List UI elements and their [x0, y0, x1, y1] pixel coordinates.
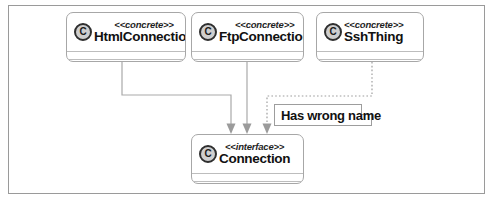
class-header: C <<concrete>> HtmlConnection	[67, 13, 185, 51]
arrowhead-html	[227, 124, 236, 135]
arrowhead-ssh	[263, 124, 272, 135]
class-box-ftp-connection[interactable]: C <<concrete>> FtpConnection	[191, 12, 304, 62]
note-has-wrong-name[interactable]: Has wrong name	[274, 104, 372, 126]
class-name-block: <<concrete>> HtmlConnection	[94, 20, 186, 44]
class-attributes-compartment	[67, 51, 185, 59]
class-operations-compartment	[192, 59, 303, 62]
class-operations-compartment	[317, 59, 423, 62]
class-c-icon: C	[324, 23, 342, 41]
class-header: C <<interface>> Connection	[192, 135, 303, 173]
class-name-block: <<interface>> Connection	[219, 142, 290, 166]
class-box-connection-interface[interactable]: C <<interface>> Connection	[191, 134, 304, 184]
note-text: Has wrong name	[281, 104, 381, 126]
class-name: FtpConnection	[219, 30, 304, 44]
relationship-html-to-connection	[122, 62, 231, 124]
class-operations-compartment	[67, 59, 185, 62]
class-c-icon: C	[199, 23, 217, 41]
class-name: Connection	[219, 152, 290, 166]
class-name-block: <<concrete>> SshThing	[344, 20, 403, 44]
class-header: C <<concrete>> SshThing	[317, 13, 423, 51]
class-name: SshThing	[344, 30, 403, 44]
class-attributes-compartment	[317, 51, 423, 59]
class-name-block: <<concrete>> FtpConnection	[219, 20, 304, 44]
class-box-html-connection[interactable]: C <<concrete>> HtmlConnection	[66, 12, 186, 62]
class-header: C <<concrete>> FtpConnection	[192, 13, 303, 51]
class-operations-compartment	[192, 181, 303, 184]
uml-class-diagram: C <<concrete>> HtmlConnection C <<concre…	[0, 0, 493, 201]
class-c-icon: C	[199, 145, 217, 163]
arrowhead-ftp	[243, 124, 252, 135]
class-attributes-compartment	[192, 173, 303, 181]
class-name: HtmlConnection	[94, 30, 186, 44]
class-attributes-compartment	[192, 51, 303, 59]
class-box-ssh-thing[interactable]: C <<concrete>> SshThing	[316, 12, 424, 62]
class-c-icon: C	[74, 23, 92, 41]
